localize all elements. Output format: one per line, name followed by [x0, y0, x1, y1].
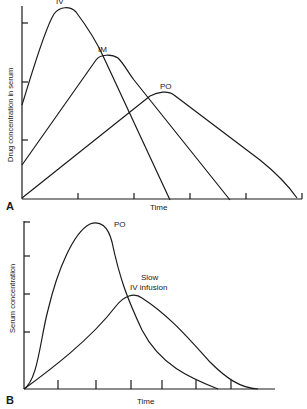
chart-b-y-label: Serum concentration	[8, 264, 17, 333]
series-b-slow-iv	[24, 295, 258, 389]
series-a-iv	[22, 8, 170, 200]
label-a-po: PO	[160, 82, 172, 91]
chart-b-x-label: Time	[137, 397, 154, 406]
label-b-iv-line1: Slow	[141, 273, 158, 282]
panel-b-label: B	[6, 394, 14, 406]
chart-a-x-label: Time	[150, 203, 167, 212]
label-a-iv: IV	[56, 0, 64, 6]
series-a-im	[22, 55, 230, 200]
chart-a-y-label: Drug concentration in serum	[6, 68, 15, 162]
series-b-po	[24, 223, 218, 389]
series-a-po	[22, 92, 297, 198]
label-b-po: PO	[114, 220, 126, 229]
panel-a-label: A	[6, 200, 14, 212]
label-a-im: IM	[98, 45, 107, 54]
label-b-iv-line2: IV infusion	[130, 283, 167, 292]
